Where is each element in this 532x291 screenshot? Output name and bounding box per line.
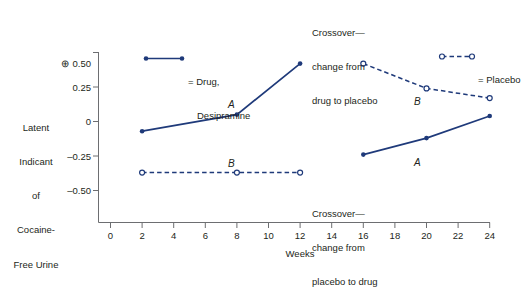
- legend-label-drug-line-1: = Drug,: [188, 76, 250, 87]
- x-tick-label-18: 18: [385, 230, 405, 241]
- legend-swatch-drug: [144, 56, 185, 61]
- series-label-b-right: B: [414, 96, 421, 107]
- y-tick-label-1: 0.25: [41, 82, 91, 93]
- x-tick-label-6: 6: [195, 230, 215, 241]
- y-axis-title: Latent Indicant of Cocaine- Free Urine: [0, 99, 72, 291]
- series-placebo-line-right: [363, 64, 489, 99]
- x-tick-label-20: 20: [417, 230, 437, 241]
- x-tick-label-22: 22: [448, 230, 468, 241]
- x-tick-label-24: 24: [480, 230, 500, 241]
- y-tick-label-0: ⊕0.50: [41, 47, 91, 80]
- x-tick-label-2: 2: [132, 230, 152, 241]
- series-drug-line-right: [363, 116, 489, 155]
- y-axis-ticks: [93, 53, 99, 191]
- x-tick-label-12: 12: [290, 230, 310, 241]
- annotation-crossover-placebo-to-drug: Crossover— change from placebo to drug: [312, 185, 378, 291]
- x-tick-label-8: 8: [227, 230, 247, 241]
- x-tick-label-0: 0: [101, 230, 121, 241]
- x-tick-label-10: 10: [259, 230, 279, 241]
- annotation-bottom-line-1: Crossover—: [312, 208, 378, 219]
- legend-label-drug-line-2: Desipramine: [188, 110, 250, 121]
- series-label-a-left: A: [228, 99, 235, 110]
- y-axis-title-line-3: of: [0, 190, 72, 201]
- legend-label-drug: = Drug, Desipramine: [188, 53, 250, 144]
- series-label-b-left: B: [228, 158, 235, 169]
- annotation-top-line-2: change from: [312, 61, 378, 72]
- series-placebo-markers-right: [361, 61, 492, 101]
- annotation-crossover-drug-to-placebo: Crossover— change from drug to placebo: [312, 4, 378, 129]
- x-tick-label-4: 4: [164, 230, 184, 241]
- y-axis-plus-icon: ⊕: [61, 58, 69, 69]
- series-label-a-right: A: [414, 157, 421, 168]
- legend-label-placebo: = Placebo: [478, 51, 521, 108]
- annotation-top-line-3: drug to placebo: [312, 95, 378, 106]
- y-axis-title-line-2: Indicant: [0, 156, 72, 167]
- annotation-bottom-line-3: placebo to drug: [312, 276, 378, 287]
- y-axis-title-line-5: Free Urine: [0, 259, 72, 270]
- legend-swatch-placebo: [440, 54, 475, 59]
- annotation-bottom-line-2: change from: [312, 242, 378, 253]
- y-axis-title-line-1: Latent: [0, 122, 72, 133]
- y-axis-title-line-4: Cocaine-: [0, 224, 72, 235]
- annotation-top-line-1: Crossover—: [312, 27, 378, 38]
- legend-label-placebo-line-1: = Placebo: [478, 74, 521, 85]
- x-axis-ticks: [111, 223, 490, 229]
